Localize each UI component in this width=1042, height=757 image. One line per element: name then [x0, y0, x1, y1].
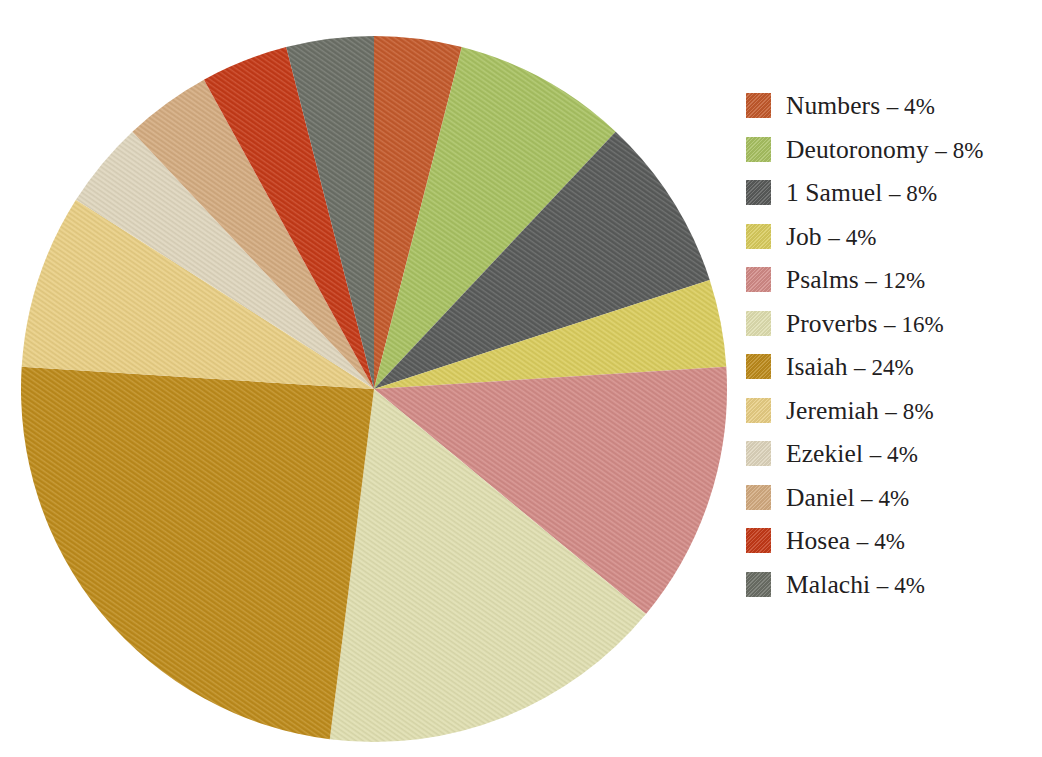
legend-item-label: Daniel – 4% [786, 485, 909, 511]
legend-item-label: Deutoronomy – 8% [786, 137, 984, 163]
legend-item-label: Malachi – 4% [786, 572, 925, 598]
legend-item: Malachi – 4% [746, 563, 1036, 607]
legend-item-label: Ezekiel – 4% [786, 441, 918, 467]
legend-item-label: Hosea – 4% [786, 528, 905, 554]
legend-item: Hosea – 4% [746, 519, 1036, 563]
legend-swatch-icon [746, 441, 771, 466]
pie-chart-svg [0, 0, 740, 757]
legend-swatch-icon [746, 572, 771, 597]
legend-item-label: Jeremiah – 8% [786, 398, 934, 424]
legend-item: Psalms – 12% [746, 258, 1036, 302]
legend-item-label: 1 Samuel – 8% [786, 180, 937, 206]
legend-swatch-icon [746, 354, 771, 379]
legend-item: Numbers – 4% [746, 84, 1036, 128]
legend-swatch-icon [746, 267, 771, 292]
legend-item: 1 Samuel – 8% [746, 171, 1036, 215]
legend-swatch-icon [746, 311, 771, 336]
legend-item-label: Job – 4% [786, 224, 877, 250]
legend-item: Isaiah – 24% [746, 345, 1036, 389]
legend-item: Job – 4% [746, 215, 1036, 259]
legend-item: Proverbs – 16% [746, 302, 1036, 346]
legend-item: Daniel – 4% [746, 476, 1036, 520]
legend-item-label: Isaiah – 24% [786, 354, 914, 380]
legend-swatch-icon [746, 137, 771, 162]
legend-swatch-icon [746, 224, 771, 249]
legend-swatch-icon [746, 485, 771, 510]
pie-texture-overlay [21, 36, 727, 742]
legend-item: Jeremiah – 8% [746, 389, 1036, 433]
legend-item-label: Numbers – 4% [786, 93, 935, 119]
legend-item-label: Proverbs – 16% [786, 311, 944, 337]
pie-slice-texture [21, 367, 374, 739]
pie-chart [0, 0, 740, 757]
legend-swatch-icon [746, 180, 771, 205]
legend-swatch-icon [746, 528, 771, 553]
chart-legend: Numbers – 4%Deutoronomy – 8%1 Samuel – 8… [746, 84, 1036, 606]
legend-item: Deutoronomy – 8% [746, 128, 1036, 172]
legend-swatch-icon [746, 93, 771, 118]
legend-item: Ezekiel – 4% [746, 432, 1036, 476]
legend-swatch-icon [746, 398, 771, 423]
legend-item-label: Psalms – 12% [786, 267, 925, 293]
